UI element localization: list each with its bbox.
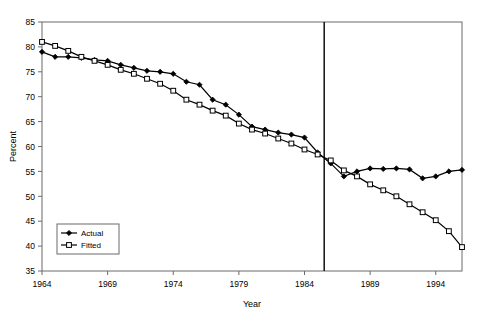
data-point-actual [354, 169, 359, 174]
data-point-actual [144, 68, 149, 73]
x-tick-label: 1974 [164, 279, 183, 289]
data-point-fitted [328, 158, 333, 163]
data-point-fitted [302, 147, 307, 152]
data-point-fitted [236, 121, 241, 126]
data-point-fitted [289, 141, 294, 146]
data-point-fitted [276, 136, 281, 141]
data-point-actual [131, 65, 136, 70]
chart-figure: 3540455055606570758085196419691974197919… [0, 0, 477, 334]
data-point-fitted [79, 54, 84, 59]
data-point-actual [276, 130, 281, 135]
data-point-actual [53, 54, 58, 59]
y-tick-label: 55 [26, 167, 36, 177]
y-tick-label: 85 [26, 17, 36, 27]
data-point-actual [39, 49, 44, 54]
data-point-fitted [446, 229, 451, 234]
data-point-fitted [66, 48, 71, 53]
data-point-fitted [105, 62, 110, 67]
data-point-actual [368, 166, 373, 171]
data-point-actual [446, 169, 451, 174]
data-point-fitted [381, 188, 386, 193]
data-point-actual [184, 79, 189, 84]
data-point-fitted [341, 168, 346, 173]
data-point-fitted [355, 174, 360, 179]
data-point-actual [158, 69, 163, 74]
chart-canvas: 3540455055606570758085196419691974197919… [0, 0, 477, 334]
data-point-actual [459, 167, 464, 172]
x-tick-label: 1979 [229, 279, 248, 289]
data-point-fitted [420, 210, 425, 215]
data-point-actual [381, 166, 386, 171]
data-point-actual [118, 62, 123, 67]
data-point-fitted [433, 218, 438, 223]
x-tick-label: 1994 [426, 279, 445, 289]
data-point-fitted [407, 202, 412, 207]
data-point-fitted [250, 127, 255, 132]
y-tick-label: 40 [26, 241, 36, 251]
data-point-fitted [118, 67, 123, 72]
data-point-fitted [184, 97, 189, 102]
y-tick-label: 35 [26, 266, 36, 276]
y-tick-label: 70 [26, 92, 36, 102]
legend-label-fitted: Fitted [81, 241, 101, 250]
data-point-fitted [131, 71, 136, 76]
x-tick-label: 1989 [361, 279, 380, 289]
y-axis-title: Percent [8, 130, 18, 162]
data-point-fitted [368, 182, 373, 187]
x-tick-label: 1969 [98, 279, 117, 289]
data-point-actual [289, 132, 294, 137]
data-point-actual [171, 71, 176, 76]
legend-marker-fitted [67, 243, 72, 248]
data-point-actual [66, 54, 71, 59]
data-point-fitted [158, 81, 163, 86]
data-point-fitted [460, 245, 465, 250]
data-point-fitted [92, 58, 97, 63]
y-tick-label: 45 [26, 216, 36, 226]
data-point-fitted [53, 44, 58, 49]
data-point-fitted [315, 152, 320, 157]
x-tick-label: 1964 [33, 279, 52, 289]
y-tick-label: 80 [26, 42, 36, 52]
data-point-fitted [263, 131, 268, 136]
data-point-fitted [145, 76, 150, 81]
y-tick-label: 50 [26, 192, 36, 202]
data-point-fitted [223, 113, 228, 118]
x-tick-label: 1984 [295, 279, 314, 289]
data-point-fitted [171, 88, 176, 93]
legend-label-actual: Actual [81, 229, 103, 238]
data-point-fitted [210, 108, 215, 113]
series-line-fitted [42, 42, 462, 247]
y-tick-label: 75 [26, 67, 36, 77]
data-point-fitted [394, 194, 399, 199]
data-point-actual [433, 174, 438, 179]
data-point-actual [394, 166, 399, 171]
series-line-actual [42, 52, 462, 178]
data-point-fitted [197, 102, 202, 107]
x-axis-title: Year [243, 299, 261, 309]
y-tick-label: 65 [26, 117, 36, 127]
data-point-fitted [40, 40, 45, 45]
y-tick-label: 60 [26, 142, 36, 152]
